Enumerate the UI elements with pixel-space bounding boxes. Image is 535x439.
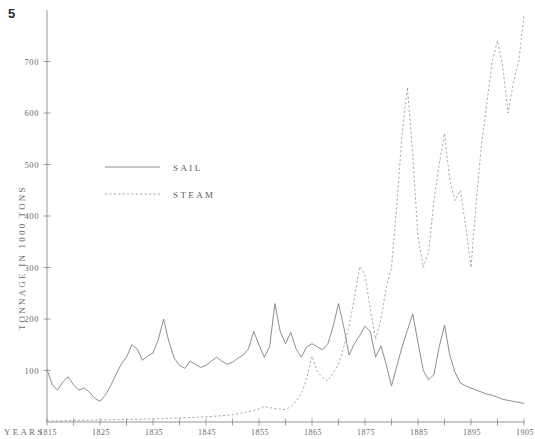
x-tick-label: 1845 [198, 428, 216, 437]
y-axis-title: TONNAGE IN 1000 TONS [17, 185, 27, 330]
legend-label-sail: SAIL [173, 163, 203, 173]
legend-label-steam: STEAM [173, 190, 216, 200]
y-tick-label: 100 [24, 366, 39, 376]
x-tick-label: 1875 [357, 428, 375, 437]
x-tick-label: 1825 [92, 428, 110, 437]
x-axis-title: YEARS [4, 427, 45, 437]
x-tick-label: 1835 [145, 428, 163, 437]
x-tick-label: 1865 [304, 428, 322, 437]
series-line-steam [47, 15, 524, 421]
y-tick-label: 500 [24, 160, 39, 170]
x-tick-label: 1855 [251, 428, 269, 437]
line-chart: 100200300400500600700TONNAGE IN 1000 TON… [0, 0, 535, 439]
x-tick-label: 1885 [410, 428, 428, 437]
figure-panel: 5 100200300400500600700TONNAGE IN 1000 T… [0, 0, 535, 439]
y-tick-label: 700 [24, 57, 39, 67]
x-tick-label: 1895 [463, 428, 481, 437]
y-tick-label: 600 [24, 108, 39, 118]
series-line-sail [47, 304, 524, 404]
x-tick-label: 1905 [516, 428, 534, 437]
